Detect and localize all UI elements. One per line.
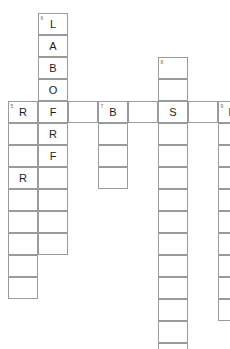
crossword-cell[interactable] xyxy=(68,101,98,123)
crossword-cell[interactable] xyxy=(158,79,188,101)
crossword-cell[interactable] xyxy=(218,167,230,189)
crossword-grid: 6L10AB8O5RF7BS9MTRFR xyxy=(0,0,230,349)
crossword-cell[interactable] xyxy=(98,167,128,189)
crossword-cell[interactable] xyxy=(128,101,158,123)
crossword-cell[interactable] xyxy=(158,321,188,343)
cell-letter: A xyxy=(39,36,67,56)
cell-letter: R xyxy=(9,102,37,122)
crossword-cell[interactable] xyxy=(8,189,38,211)
crossword-cell[interactable]: 9M xyxy=(218,101,230,123)
crossword-cell[interactable] xyxy=(38,211,68,233)
crossword-cell[interactable] xyxy=(8,123,38,145)
cell-letter: L xyxy=(39,14,67,34)
crossword-cell[interactable] xyxy=(188,101,218,123)
cell-letter: F xyxy=(39,146,67,166)
crossword-cell[interactable] xyxy=(158,277,188,299)
cell-letter: O xyxy=(39,80,67,100)
crossword-cell[interactable]: 6L xyxy=(38,13,68,35)
crossword-cell[interactable]: R xyxy=(8,167,38,189)
crossword-cell[interactable] xyxy=(158,189,188,211)
crossword-cell[interactable]: 5R xyxy=(8,101,38,123)
crossword-cell[interactable] xyxy=(98,145,128,167)
crossword-cell[interactable] xyxy=(158,255,188,277)
crossword-cell[interactable] xyxy=(218,299,230,321)
crossword-cell[interactable]: F xyxy=(38,145,68,167)
crossword-cell[interactable] xyxy=(218,211,230,233)
crossword-cell[interactable] xyxy=(8,145,38,167)
crossword-cell[interactable] xyxy=(8,233,38,255)
crossword-cell[interactable]: O xyxy=(38,79,68,101)
crossword-cell[interactable] xyxy=(218,277,230,299)
crossword-cell[interactable] xyxy=(158,145,188,167)
crossword-cell[interactable] xyxy=(8,255,38,277)
cell-letter: B xyxy=(99,102,127,122)
crossword-cell[interactable]: F xyxy=(38,101,68,123)
crossword-cell[interactable] xyxy=(8,211,38,233)
cell-letter: R xyxy=(9,168,37,188)
crossword-cell[interactable]: R xyxy=(38,123,68,145)
crossword-cell[interactable] xyxy=(158,211,188,233)
crossword-cell[interactable]: B xyxy=(38,57,68,79)
cell-letter: F xyxy=(39,102,67,122)
crossword-cell[interactable]: 8 xyxy=(158,57,188,79)
crossword-cell[interactable] xyxy=(158,233,188,255)
crossword-cell[interactable] xyxy=(158,299,188,321)
crossword-cell[interactable] xyxy=(38,189,68,211)
crossword-cell[interactable] xyxy=(38,167,68,189)
cell-letter: S xyxy=(159,102,187,122)
crossword-cell[interactable] xyxy=(218,189,230,211)
cell-letter: R xyxy=(39,124,67,144)
crossword-cell[interactable] xyxy=(158,123,188,145)
clue-number: 8 xyxy=(161,59,164,65)
cell-letter: M xyxy=(219,102,230,122)
crossword-cell[interactable] xyxy=(218,233,230,255)
crossword-cell[interactable]: S xyxy=(158,101,188,123)
crossword-cell[interactable] xyxy=(98,123,128,145)
cell-letter: B xyxy=(39,58,67,78)
crossword-cell[interactable] xyxy=(158,167,188,189)
crossword-cell[interactable]: 7B xyxy=(98,101,128,123)
crossword-cell[interactable] xyxy=(218,123,230,145)
crossword-cell[interactable] xyxy=(38,233,68,255)
crossword-cell[interactable]: A xyxy=(38,35,68,57)
crossword-cell[interactable] xyxy=(218,255,230,277)
crossword-cell[interactable] xyxy=(218,145,230,167)
crossword-cell[interactable] xyxy=(8,277,38,299)
crossword-cell[interactable] xyxy=(158,343,188,349)
